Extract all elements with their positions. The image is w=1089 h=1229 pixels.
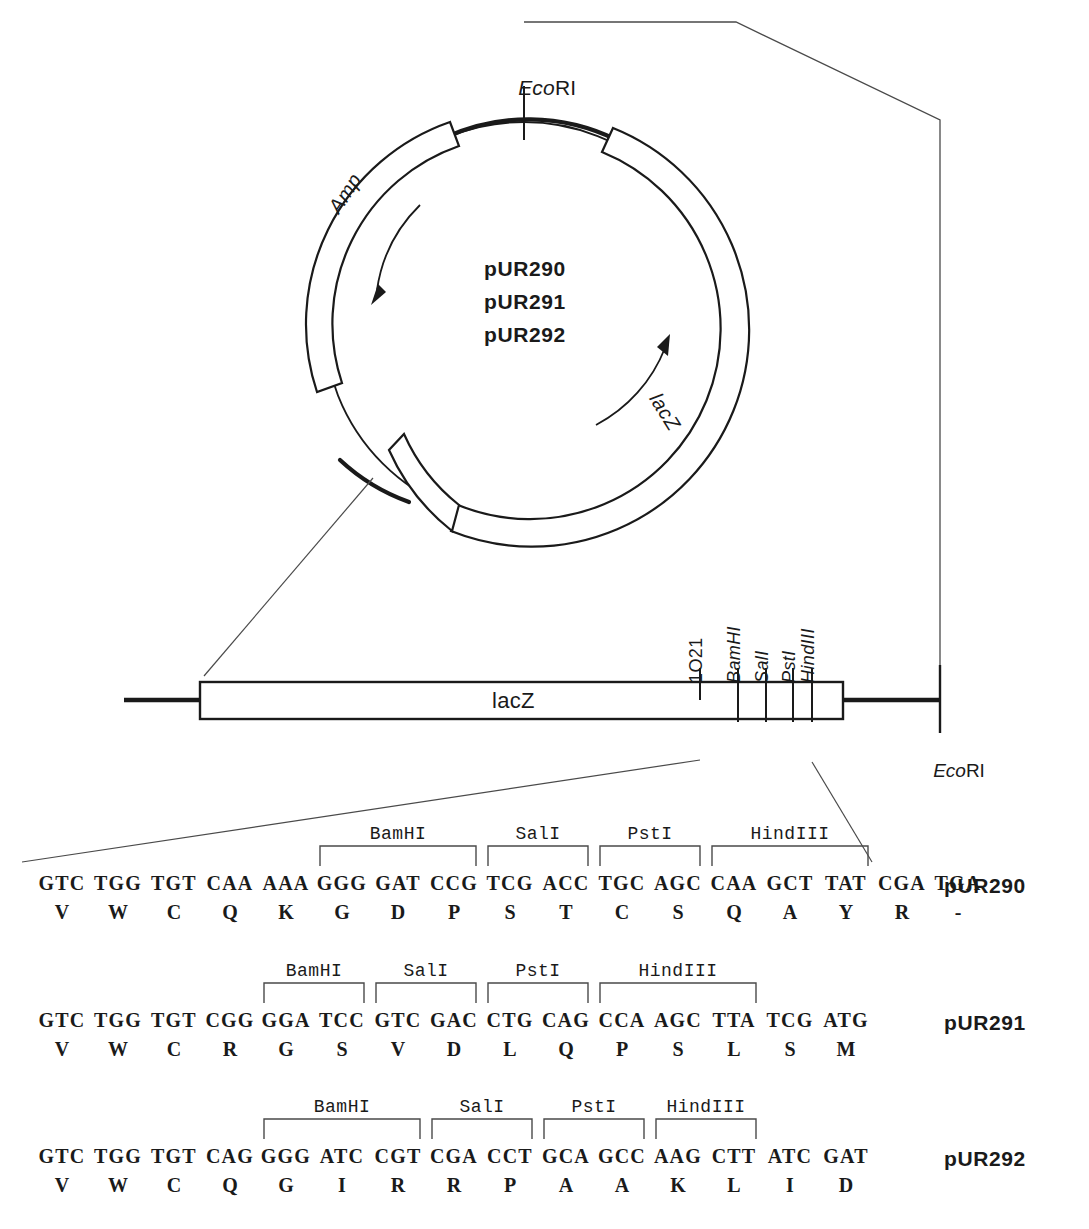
amino-acid: V (36, 901, 88, 924)
amino-acid: G (260, 1038, 312, 1061)
codon: GGG (260, 1145, 312, 1168)
codon: CGA (876, 872, 928, 895)
codon: GAT (372, 872, 424, 895)
amino-acid: Q (708, 901, 760, 924)
codon: ACC (540, 872, 592, 895)
codon: TGT (148, 1009, 200, 1032)
codon: TCG (484, 872, 536, 895)
site-label-1o21: 1O21 (686, 637, 707, 683)
figure-canvas: EcoRI Amp lacZ pUR290 pUR291 pUR292 lacZ… (0, 0, 1089, 1229)
codon: GCC (596, 1145, 648, 1168)
amino-acid: C (596, 901, 648, 924)
sequence-row-name: pUR290 (944, 874, 1026, 898)
codon: CCT (484, 1145, 536, 1168)
codon: AAG (652, 1145, 704, 1168)
amino-acid: L (708, 1038, 760, 1061)
amino-acid: A (596, 1174, 648, 1197)
codon: ATC (764, 1145, 816, 1168)
amino-acid: P (484, 1174, 536, 1197)
enzyme-bracket (600, 983, 756, 1003)
amino-acid: D (428, 1038, 480, 1061)
amino-acid: K (652, 1174, 704, 1197)
amino-acid: V (36, 1038, 88, 1061)
amino-acid: L (708, 1174, 760, 1197)
codon: GCA (540, 1145, 592, 1168)
site-label-psti: PstI (779, 650, 800, 683)
amino-acid: D (372, 901, 424, 924)
amino-acid: C (148, 901, 200, 924)
amino-acid: R (876, 901, 928, 924)
codon: AGC (652, 872, 704, 895)
amino-acid: S (652, 1038, 704, 1061)
codon: CAG (540, 1009, 592, 1032)
amino-acid: W (92, 901, 144, 924)
codon: GTC (36, 1009, 88, 1032)
amino-acid: Y (820, 901, 872, 924)
amino-acid: S (484, 901, 536, 924)
amino-acid: T (540, 901, 592, 924)
enzyme-bracket (488, 983, 588, 1003)
enzyme-label-bamhi: BamHI (328, 824, 468, 844)
codon: GAT (820, 1145, 872, 1168)
amino-acid: M (820, 1038, 872, 1061)
enzyme-label-bamhi: BamHI (272, 1097, 412, 1117)
codon: CCA (596, 1009, 648, 1032)
enzyme-label-hindiii: HindIII (636, 1097, 776, 1117)
codon: GTC (36, 1145, 88, 1168)
codon: CTG (484, 1009, 536, 1032)
plasmid-name-0: pUR290 (484, 252, 566, 285)
amino-acid: S (764, 1038, 816, 1061)
codon: GTC (36, 872, 88, 895)
enzyme-label-hindiii: HindIII (608, 961, 748, 981)
codon: TGG (92, 872, 144, 895)
enzyme-bracket (376, 983, 476, 1003)
plasmid-name-1: pUR291 (484, 285, 566, 318)
amino-acid: A (540, 1174, 592, 1197)
amino-acid: G (260, 1174, 312, 1197)
amino-acid: S (316, 1038, 368, 1061)
enzyme-bracket (656, 1119, 756, 1139)
plasmid-ecori-label: EcoRI (494, 52, 576, 124)
codon: TTA (708, 1009, 760, 1032)
codon: CTT (708, 1145, 760, 1168)
enzyme-label-psti: PstI (580, 824, 720, 844)
codon: GTC (372, 1009, 424, 1032)
amino-acid: S (652, 901, 704, 924)
amino-acid: C (148, 1038, 200, 1061)
amino-acid: W (92, 1038, 144, 1061)
codon: GGA (260, 1009, 312, 1032)
enzyme-label-hindiii: HindIII (720, 824, 860, 844)
codon: TGG (92, 1009, 144, 1032)
amino-acid: A (764, 901, 816, 924)
amino-acid: Q (204, 1174, 256, 1197)
codon: TGT (148, 872, 200, 895)
plasmid-ecori-italic: Eco (518, 76, 555, 99)
amino-acid: L (484, 1038, 536, 1061)
codon: AGC (652, 1009, 704, 1032)
amino-acid: C (148, 1174, 200, 1197)
codon: CGT (372, 1145, 424, 1168)
enzyme-bracket (432, 1119, 532, 1139)
codon: AAA (260, 872, 312, 895)
site-label-hindiii: HindIII (798, 628, 819, 683)
enzyme-bracket (264, 1119, 420, 1139)
codon: CGG (204, 1009, 256, 1032)
enzyme-bracket (320, 846, 476, 866)
plasmid-center-names: pUR290 pUR291 pUR292 (484, 252, 566, 351)
codon: CAA (708, 872, 760, 895)
site-label-sali: SalI (752, 650, 773, 683)
enzyme-bracket (264, 983, 364, 1003)
plasmid-ecori-roman: RI (555, 76, 576, 99)
codon: TGT (148, 1145, 200, 1168)
amino-acid: R (428, 1174, 480, 1197)
linear-ecori-label: EcoRI (912, 738, 985, 804)
linear-lacz-label: lacZ (492, 688, 535, 714)
amino-acid: Q (204, 901, 256, 924)
enzyme-bracket (488, 846, 588, 866)
amino-acid: I (764, 1174, 816, 1197)
codon: ATG (820, 1009, 872, 1032)
codon: TAT (820, 872, 872, 895)
site-label-bamhi: BamHI (724, 626, 745, 683)
enzyme-label-psti: PstI (468, 961, 608, 981)
amino-acid: D (820, 1174, 872, 1197)
